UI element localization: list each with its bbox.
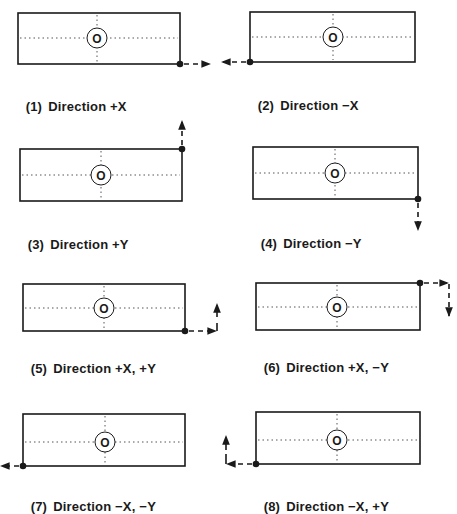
panel-8-workpiece: O — [226, 412, 420, 467]
origin-label: O — [330, 167, 339, 181]
caption-number: (6) — [264, 360, 281, 375]
caption-text: Direction −X — [280, 98, 359, 113]
start-point-dot — [253, 461, 260, 468]
caption-text: Direction +Y — [50, 237, 129, 252]
caption-number: (3) — [28, 237, 45, 252]
caption-number: (5) — [31, 361, 48, 376]
caption-text: Direction −X, +Y — [286, 499, 389, 514]
origin-label: O — [96, 169, 105, 183]
start-point-dot — [182, 328, 189, 335]
origin-label: O — [332, 434, 341, 448]
caption-number: (8) — [264, 499, 281, 514]
origin-label: O — [100, 436, 109, 450]
caption-text: Direction −X, −Y — [53, 499, 156, 514]
origin-label: O — [328, 31, 337, 45]
panel-3-workpiece: O — [20, 121, 185, 201]
start-point-dot — [247, 59, 254, 66]
start-point-dot — [20, 463, 27, 470]
panel-1-workpiece: O — [18, 13, 210, 67]
panel-7-workpiece: O — [1, 414, 185, 469]
caption-panel-8: (8)Direction −X, +Y — [256, 484, 389, 514]
origin-label: O — [99, 302, 108, 316]
caption-panel-1: (1)Direction +X — [18, 84, 127, 114]
caption-number: (4) — [261, 236, 278, 251]
direction-diagram: O O O O O — [0, 0, 457, 514]
caption-text: Direction +X — [48, 99, 127, 114]
caption-text: Direction −Y — [283, 236, 362, 251]
caption-panel-7: (7)Direction −X, −Y — [23, 484, 156, 514]
caption-text: Direction +X, +Y — [53, 361, 156, 376]
start-point-dot — [417, 280, 424, 287]
start-point-dot — [177, 61, 184, 68]
panel-4-workpiece: O — [253, 147, 421, 230]
start-point-dot — [415, 196, 422, 203]
panel-5-workpiece: O — [23, 284, 217, 334]
caption-panel-3: (3)Direction +Y — [20, 222, 129, 252]
caption-number: (1) — [26, 99, 43, 114]
caption-panel-6: (6)Direction +X, −Y — [256, 345, 389, 375]
panel-2-workpiece: O — [222, 12, 415, 65]
start-point-dot — [179, 146, 186, 153]
origin-label: O — [332, 301, 341, 315]
origin-label: O — [92, 32, 101, 46]
caption-panel-4: (4)Direction −Y — [253, 221, 362, 251]
caption-text: Direction +X, −Y — [286, 360, 389, 375]
caption-number: (7) — [31, 499, 48, 514]
panel-6-workpiece: O — [256, 280, 449, 330]
caption-number: (2) — [258, 98, 275, 113]
caption-panel-5: (5)Direction +X, +Y — [23, 346, 156, 376]
caption-panel-2: (2)Direction −X — [250, 83, 359, 113]
